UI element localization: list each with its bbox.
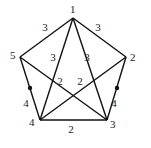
vertex-label-3: 3 xyxy=(110,118,116,130)
edge-weight-label: 3 xyxy=(84,51,90,63)
vertex-labels: 12345 xyxy=(10,3,136,130)
edge-weight-label: 4 xyxy=(23,97,29,109)
edge-5-3 xyxy=(20,57,107,120)
edge-weight-label: 4 xyxy=(111,97,117,109)
vertex-label-4: 4 xyxy=(29,116,35,128)
edge-weight-label: 2 xyxy=(57,75,63,87)
edge-1-4 xyxy=(40,18,73,120)
vertex-label-2: 2 xyxy=(130,51,136,63)
edge-weight-label: 2 xyxy=(77,75,83,87)
edge-marker-dot xyxy=(28,86,32,90)
edges xyxy=(20,18,126,120)
edge-weight-label: 2 xyxy=(68,123,74,135)
edge-2-4 xyxy=(40,57,126,120)
vertex-label-5: 5 xyxy=(10,49,16,61)
edge-1-3 xyxy=(73,18,107,120)
edge-weight-label: 3 xyxy=(95,21,101,33)
edge-weight-label: 3 xyxy=(50,51,56,63)
vertex-label-1: 1 xyxy=(70,3,76,15)
edge-markers xyxy=(28,86,119,90)
weighted-graph-diagram: 12345 333322442 xyxy=(0,0,151,148)
edge-weight-label: 3 xyxy=(42,21,48,33)
edge-marker-dot xyxy=(115,86,119,90)
